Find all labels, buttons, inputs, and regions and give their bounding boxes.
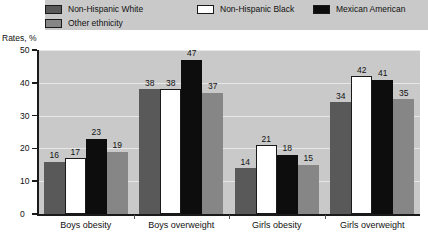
bar-slot: 38 [160,50,181,214]
bar-value-label: 42 [357,66,366,75]
y-axis-tick-label: 30 [20,111,29,120]
bar-group: 34424135 [325,50,421,214]
bar[interactable] [202,93,223,214]
bar-value-label: 16 [50,151,59,160]
bar[interactable] [139,89,160,214]
legend-label-non-hispanic-black: Non-Hispanic Black [220,4,294,14]
bar-value-label: 15 [304,154,313,163]
bar[interactable] [44,162,65,214]
legend-item-non-hispanic-black: Non-Hispanic Black [197,4,294,14]
bar-group: 14211815 [229,50,325,214]
bar-slot: 38 [139,50,160,214]
bar-group-bars: 14211815 [229,50,325,214]
bar-group-bars: 16172319 [38,50,134,214]
bar-value-label: 18 [283,144,292,153]
bar[interactable] [256,145,277,214]
bar[interactable] [277,155,298,214]
x-axis-category-label: Boys obesity [38,220,134,230]
bar-value-label: 47 [187,49,196,58]
bar-group: 16172319 [38,50,134,214]
legend-label-mexican-american: Mexican American [336,4,405,14]
legend-label-non-hispanic-white: Non-Hispanic White [68,4,143,14]
bar-slot: 15 [298,50,319,214]
bar-value-label: 37 [208,82,217,91]
bar[interactable] [330,102,351,214]
bar[interactable] [351,76,372,214]
x-axis-category-label: Girls overweight [325,220,421,230]
bar-slot: 41 [372,50,393,214]
bar-group-bars: 38384737 [134,50,230,214]
bar[interactable] [235,168,256,214]
y-axis-tick-label: 0 [20,210,29,219]
legend-label-other-ethnicity: Other ethnicity [68,18,123,28]
legend-swatch-icon-other-ethnicity [45,19,62,28]
y-axis-title: Rates, % [2,33,37,43]
y-axis-tick-label: 20 [20,144,29,153]
bar-value-label: 38 [166,79,175,88]
bar-value-label: 23 [92,128,101,137]
bar-slot: 17 [65,50,86,214]
bar[interactable] [160,89,181,214]
x-axis-category-labels: Boys obesityBoys overweightGirls obesity… [38,220,420,230]
x-axis-category-label: Girls obesity [229,220,325,230]
y-axis-tick-label: 40 [20,79,29,88]
plot-area: 01020304050 1617231938384737142118153442… [38,50,420,214]
bar-slot: 18 [277,50,298,214]
chart-legend: Non-Hispanic White Non-Hispanic Black Me… [45,0,428,30]
bar[interactable] [181,60,202,214]
bar-slot: 19 [107,50,128,214]
bar-slot: 37 [202,50,223,214]
bar-slot: 16 [44,50,65,214]
bar-value-label: 21 [262,135,271,144]
bar-value-label: 34 [336,92,345,101]
x-axis-separator-tick [229,215,230,219]
bar-slot: 42 [351,50,372,214]
bar-value-label: 35 [399,89,408,98]
bar-slot: 23 [86,50,107,214]
bar-slot: 14 [235,50,256,214]
legend-swatch-icon-non-hispanic-white [45,5,62,14]
legend-item-other-ethnicity: Other ethnicity [45,18,123,28]
bar-value-label: 14 [241,158,250,167]
bar-groups: 16172319383847371421181534424135 [38,50,420,214]
bar-value-label: 38 [145,79,154,88]
legend-swatch-icon-mexican-american [313,5,330,14]
bar-slot: 21 [256,50,277,214]
bar[interactable] [372,80,393,214]
legend-item-mexican-american: Mexican American [313,4,405,14]
bar-slot: 35 [393,50,414,214]
bar[interactable] [393,99,414,214]
bar[interactable] [86,139,107,214]
bar-slot: 34 [330,50,351,214]
bar[interactable] [65,158,86,214]
bar-value-label: 19 [113,141,122,150]
y-axis-tick-label: 50 [20,46,29,55]
y-axis-tick-label: 10 [20,177,29,186]
bar[interactable] [298,165,319,214]
legend-item-non-hispanic-white: Non-Hispanic White [45,4,143,14]
x-axis-separator-tick [325,215,326,219]
x-axis-category-label: Boys overweight [134,220,230,230]
x-axis-separator-tick [134,215,135,219]
bar-slot: 47 [181,50,202,214]
legend-swatch-icon-non-hispanic-black [197,5,214,14]
bar-group: 38384737 [134,50,230,214]
bar-value-label: 41 [378,69,387,78]
bar[interactable] [107,152,128,214]
bar-value-label: 17 [71,148,80,157]
bar-group-bars: 34424135 [325,50,421,214]
